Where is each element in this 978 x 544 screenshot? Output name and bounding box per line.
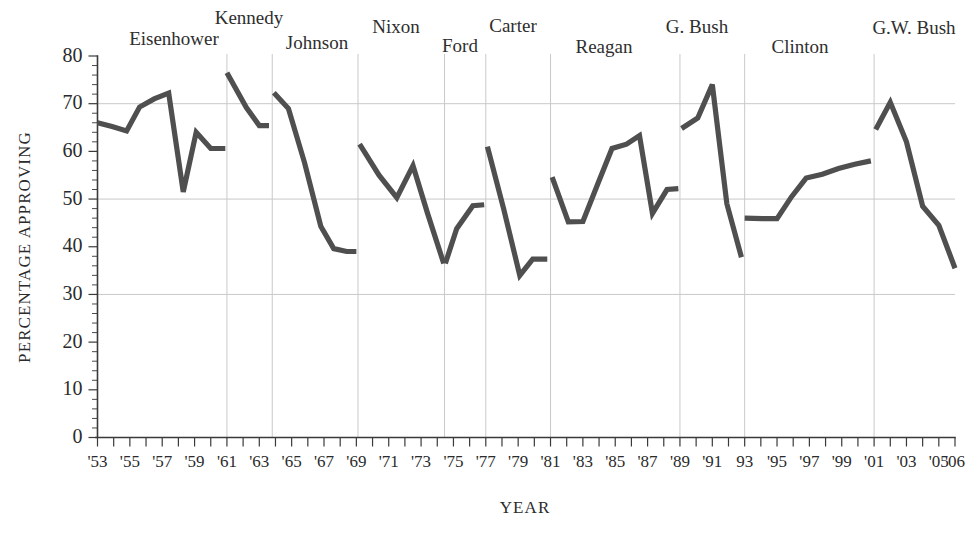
president-label-johnson: Johnson [286, 32, 349, 53]
x-tick-label-1969: '69 [346, 452, 366, 471]
y-axis-tick-labels: 01020304050607080 [63, 44, 83, 448]
x-tick-label-1985: '85 [605, 452, 625, 471]
approval-rating-chart: 01020304050607080 '53'55'57'59'61'63'65'… [0, 0, 978, 544]
x-tick-label-1989: '89 [670, 452, 690, 471]
president-label-kennedy: Kennedy [215, 7, 284, 28]
y-axis-title: PERCENTAGE APPROVING [15, 131, 34, 363]
x-tick-label-1975: '75 [443, 452, 463, 471]
x-tick-label-2001: '01 [864, 452, 884, 471]
x-tick-label-2006: '06 [945, 452, 965, 471]
x-tick-label-1963: '63 [249, 452, 269, 471]
president-label-eisenhower: Eisenhower [129, 28, 219, 49]
y-tick-label-60: 60 [63, 139, 83, 161]
x-tick-label-1971: '71 [379, 452, 399, 471]
y-tick-label-80: 80 [63, 44, 83, 66]
x-tick-label-2003: '03 [896, 452, 916, 471]
y-tick-label-40: 40 [63, 234, 83, 256]
x-tick-label-1953: '53 [87, 452, 107, 471]
chart-svg: 01020304050607080 '53'55'57'59'61'63'65'… [0, 0, 978, 544]
x-tick-label-1997: '97 [799, 452, 820, 471]
x-tick-label-1993: 93 [736, 452, 753, 471]
x-axis-title: YEAR [500, 498, 551, 517]
x-tick-label-1959: '59 [185, 452, 205, 471]
x-tick-label-1979: '79 [508, 452, 528, 471]
x-tick-label-1995: '95 [767, 452, 787, 471]
x-tick-label-1977: '77 [476, 452, 497, 471]
y-tick-label-10: 10 [63, 377, 83, 399]
x-tick-label-1981: '81 [540, 452, 560, 471]
x-tick-label-1999: '99 [832, 452, 852, 471]
x-tick-label-1961: '61 [217, 452, 237, 471]
president-label-nixon: Nixon [372, 16, 420, 37]
y-tick-label-70: 70 [63, 91, 83, 113]
y-tick-label-50: 50 [63, 187, 83, 209]
president-label-reagan: Reagan [576, 36, 633, 57]
president-label-g-w-bush: G.W. Bush [872, 17, 956, 38]
y-tick-label-20: 20 [63, 330, 83, 352]
x-tick-label-1967: '67 [314, 452, 335, 471]
x-tick-label-1955: '55 [120, 452, 140, 471]
x-tick-label-1973: '73 [411, 452, 431, 471]
x-axis-tick-labels: '53'55'57'59'61'63'65'67'69'71'73'75'77'… [87, 452, 965, 471]
president-label-clinton: Clinton [771, 36, 829, 57]
president-label-g-bush: G. Bush [666, 16, 729, 37]
y-tick-label-30: 30 [63, 282, 83, 304]
president-label-carter: Carter [489, 15, 537, 36]
x-tick-label-1987: '87 [638, 452, 659, 471]
x-tick-label-1957: '57 [152, 452, 173, 471]
president-label-ford: Ford [442, 35, 478, 56]
y-tick-label-0: 0 [73, 425, 83, 447]
x-tick-label-1983: '83 [573, 452, 593, 471]
x-tick-label-1991: '91 [702, 452, 722, 471]
x-tick-label-1965: '65 [282, 452, 302, 471]
